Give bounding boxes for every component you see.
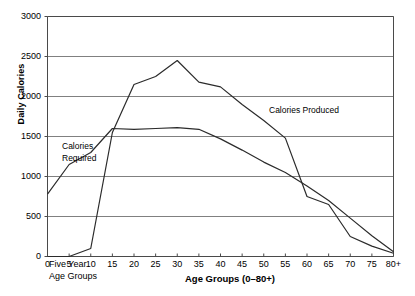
y-tick-label: 500 bbox=[7, 211, 41, 221]
calories-produced-label: Calories Produced bbox=[269, 105, 339, 115]
chart-container: Daily Calories Age Groups (0–80+) Five Y… bbox=[0, 0, 415, 296]
y-tick-label: 1000 bbox=[7, 171, 41, 181]
gridlines bbox=[48, 17, 394, 217]
y-tick-label: 0 bbox=[7, 251, 41, 261]
series-line-calories-required bbox=[48, 128, 394, 252]
y-tick-label: 2000 bbox=[7, 91, 41, 101]
calories-required-label-line1: Calories bbox=[62, 141, 93, 151]
y-tick-label: 3000 bbox=[7, 11, 41, 21]
x-axis-title: Age Groups (0–80+) bbox=[150, 273, 310, 284]
five-year-note-line2: Age Groups bbox=[49, 271, 97, 283]
series-line-calories-produced bbox=[48, 61, 394, 257]
y-tick-label: 1500 bbox=[7, 131, 41, 141]
series-lines bbox=[48, 61, 394, 257]
x-tick-label: 80+ bbox=[380, 259, 408, 269]
y-tick-label: 2500 bbox=[7, 51, 41, 61]
calories-required-label-line2: Required bbox=[62, 153, 97, 163]
